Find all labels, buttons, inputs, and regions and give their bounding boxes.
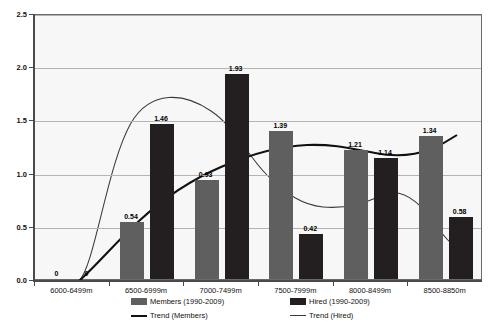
chart-legend: Members (1990-2009) Trend (Members) Hire… (0, 296, 491, 330)
bar-hired (150, 124, 174, 279)
x-axis-label: 6000-6499m (31, 286, 111, 295)
legend-line-trend-members-icon (131, 315, 147, 317)
chart-title (0, 0, 491, 2)
bar-value-label: 1.14 (363, 149, 407, 156)
x-axis-label: 8000-8499m (330, 286, 410, 295)
y-axis-tick (29, 120, 33, 121)
y-axis-label: 1.0 (0, 170, 27, 179)
y-axis-label: 1.5 (0, 116, 27, 125)
bar-value-label: 0 (64, 270, 108, 277)
bar-members (195, 180, 219, 279)
x-axis-label: 7000-7499m (181, 286, 261, 295)
trend-lines-layer (35, 15, 483, 281)
y-axis-label: 0.0 (0, 276, 27, 285)
legend-item-members: Members (1990-2009) (131, 296, 224, 307)
legend-label-trend-hired: Trend (Hired) (309, 311, 353, 320)
bar-value-label: 0.54 (109, 213, 153, 220)
bar-members (269, 131, 293, 279)
legend-item-trend-members: Trend (Members) (131, 310, 224, 321)
y-axis-tick (29, 280, 33, 281)
y-axis-tick (29, 67, 33, 68)
gridline (35, 175, 481, 176)
bar-value-label: 0.42 (288, 225, 332, 232)
y-axis-tick (29, 174, 33, 175)
bar-members (120, 222, 144, 279)
legend-item-trend-hired: Trend (Hired) (290, 310, 370, 321)
legend-label-members: Members (1990-2009) (150, 297, 224, 306)
y-axis-tick (29, 14, 33, 15)
bar-hired (299, 234, 323, 279)
plot-area (34, 14, 482, 280)
bar-value-label: 0.58 (438, 208, 482, 215)
bar-value-label: 1.34 (408, 127, 452, 134)
x-axis-label: 7500-7999m (255, 286, 335, 295)
chart-container: Members (1990-2009) Trend (Members) Hire… (0, 0, 491, 331)
bar-value-label: 0.93 (184, 171, 228, 178)
gridline (35, 228, 481, 229)
legend-label-hired: Hired (1990-2009) (309, 297, 370, 306)
y-axis-label: 0.5 (0, 223, 27, 232)
gridline (35, 68, 481, 69)
gridline (35, 15, 481, 16)
y-axis (33, 14, 35, 281)
legend-swatch-members-icon (131, 298, 147, 305)
bar-value-label: 1.21 (333, 141, 377, 148)
legend-column-right: Hired (1990-2009) Trend (Hired) (290, 296, 370, 324)
bar-members (344, 150, 368, 279)
y-axis-label: 2.0 (0, 63, 27, 72)
bar-value-label: 1.39 (258, 122, 302, 129)
bar-hired (374, 158, 398, 279)
y-axis-tick (29, 227, 33, 228)
y-axis-label: 2.5 (0, 10, 27, 19)
legend-column-left: Members (1990-2009) Trend (Members) (131, 296, 224, 324)
x-axis-label: 8500-8850m (405, 286, 485, 295)
bar-value-label: 1.46 (139, 115, 183, 122)
legend-line-trend-hired-icon (290, 315, 306, 316)
legend-swatch-hired-icon (290, 298, 306, 305)
legend-item-hired: Hired (1990-2009) (290, 296, 370, 307)
bar-value-label: 1.93 (214, 65, 258, 72)
bar-hired (225, 74, 249, 279)
bar-hired (449, 217, 473, 279)
x-axis-label: 6500-6999m (106, 286, 186, 295)
legend-label-trend-members: Trend (Members) (150, 311, 208, 320)
